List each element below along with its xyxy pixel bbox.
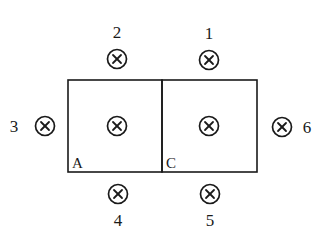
wire-2: 2 (108, 23, 127, 69)
current-into-page-icon (200, 117, 219, 136)
current-into-page-icon (273, 118, 292, 137)
wire-5: 5 (201, 185, 220, 231)
wire-4: 4 (109, 185, 128, 231)
current-into-page-icon (109, 185, 128, 204)
diagram-canvas: A C 2 1 3 6 4 5 (0, 0, 331, 237)
wire-5-label: 5 (206, 211, 215, 230)
wire-1: 1 (200, 24, 219, 70)
current-into-page-icon (108, 50, 127, 69)
current-into-page-icon (108, 117, 127, 136)
region-c-label: C (166, 155, 176, 171)
wire-3-label: 3 (10, 117, 19, 136)
wire-6-label: 6 (303, 118, 312, 137)
wire-1-label: 1 (205, 24, 214, 43)
current-into-page-icon (200, 51, 219, 70)
current-into-page-icon (36, 117, 55, 136)
region-a-label: A (72, 155, 83, 171)
wire-center-c (200, 117, 219, 136)
current-into-page-icon (201, 185, 220, 204)
wire-3: 3 (10, 117, 55, 137)
wire-2-label: 2 (113, 23, 122, 42)
wire-center-a (108, 117, 127, 136)
region-boxes (68, 80, 257, 172)
wire-6: 6 (273, 118, 312, 138)
wire-4-label: 4 (114, 211, 123, 230)
